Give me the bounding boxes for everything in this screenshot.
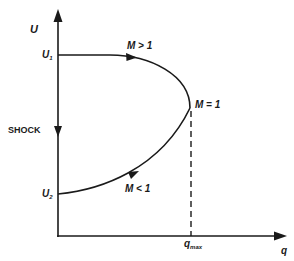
y-axis [54, 9, 63, 237]
x-axis-label: q [281, 246, 287, 256]
qmax-label: qmax [184, 239, 202, 250]
shock-label: SHOCK [8, 126, 41, 135]
x-axis-arrow-icon [274, 232, 287, 241]
qmax-label-sub: max [190, 244, 202, 250]
u2-label-sub: 2 [49, 194, 52, 200]
y-axis-arrow-icon [54, 9, 63, 22]
supersonic-direction-arrow-icon [126, 53, 137, 61]
supersonic-branch-curve [58, 55, 190, 108]
supersonic-label: M > 1 [127, 41, 152, 51]
subsonic-label: M < 1 [125, 184, 150, 194]
u1-label: U1 [42, 50, 53, 61]
subsonic-branch-curve [58, 108, 190, 194]
x-axis [57, 232, 287, 241]
sonic-label: M = 1 [195, 100, 220, 110]
shock-arrow-icon [54, 126, 62, 137]
u2-label: U2 [42, 189, 53, 200]
y-axis-label: U [30, 24, 38, 35]
subsonic-direction-arrow-icon [128, 171, 139, 179]
u1-label-sub: 1 [49, 55, 52, 61]
